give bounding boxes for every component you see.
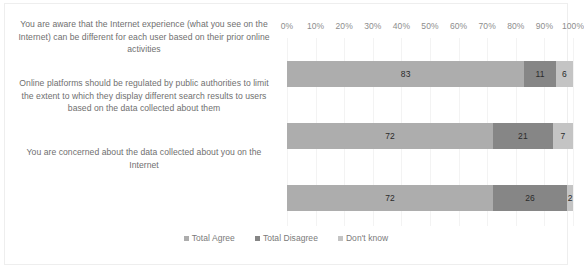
plot-area: 831167221772262 bbox=[287, 38, 573, 226]
legend-label: Don't know bbox=[346, 233, 388, 243]
bar-row[interactable]: 72217 bbox=[287, 123, 573, 149]
bar-value-label: 83 bbox=[401, 69, 411, 79]
legend-swatch-icon bbox=[184, 236, 189, 241]
x-axis-tick-0: 0% bbox=[281, 21, 294, 31]
bar-value-label: 72 bbox=[385, 131, 395, 141]
bar-value-label: 2 bbox=[568, 193, 573, 203]
bar-value-label: 21 bbox=[518, 131, 528, 141]
gridline-100 bbox=[573, 38, 574, 226]
x-axis-tick-20: 20% bbox=[336, 21, 353, 31]
bar-segment-total-disagree[interactable]: 21 bbox=[493, 123, 553, 149]
chart-container: 0%10%20%30%40%50%60%70%80%90%100% 831167… bbox=[4, 3, 568, 265]
legend-label: Total Agree bbox=[192, 233, 235, 243]
bar-value-label: 7 bbox=[561, 131, 566, 141]
x-axis-tick-90: 90% bbox=[536, 21, 553, 31]
bar-segment-total-disagree[interactable]: 26 bbox=[493, 185, 567, 211]
legend-item[interactable]: Total Agree bbox=[184, 233, 235, 243]
x-axis-tick-70: 70% bbox=[479, 21, 496, 31]
bar-segment-total-disagree[interactable]: 11 bbox=[524, 61, 555, 87]
bar-segment-total-agree[interactable]: 72 bbox=[287, 123, 493, 149]
bar-segment-don-t-know[interactable]: 7 bbox=[553, 123, 573, 149]
legend-item[interactable]: Total Disagree bbox=[255, 233, 318, 243]
x-axis-tick-50: 50% bbox=[421, 21, 438, 31]
bar-segment-don-t-know[interactable]: 6 bbox=[556, 61, 573, 87]
bar-value-label: 6 bbox=[562, 69, 567, 79]
legend-label: Total Disagree bbox=[263, 233, 318, 243]
x-axis-tick-100: 100% bbox=[562, 21, 584, 31]
x-axis-tick-30: 30% bbox=[364, 21, 381, 31]
bar-value-label: 72 bbox=[385, 193, 395, 203]
x-axis-tick-40: 40% bbox=[393, 21, 410, 31]
legend-swatch-icon bbox=[338, 236, 343, 241]
x-axis-tick-60: 60% bbox=[450, 21, 467, 31]
category-label: You are aware that the Internet experien… bbox=[13, 18, 275, 56]
legend-item[interactable]: Don't know bbox=[338, 233, 388, 243]
bar-row[interactable]: 83116 bbox=[287, 61, 573, 87]
bar-row[interactable]: 72262 bbox=[287, 185, 573, 211]
x-axis-tick-labels: 0%10%20%30%40%50%60%70%80%90%100% bbox=[283, 21, 573, 35]
bar-segment-total-agree[interactable]: 83 bbox=[287, 61, 524, 87]
category-label: Online platforms should be regulated by … bbox=[13, 77, 275, 115]
x-axis-tick-10: 10% bbox=[307, 21, 324, 31]
x-axis-tick-80: 80% bbox=[507, 21, 524, 31]
category-label: You are concerned about the data collect… bbox=[13, 146, 275, 171]
bar-segment-total-agree[interactable]: 72 bbox=[287, 185, 493, 211]
bar-value-label: 11 bbox=[536, 69, 545, 79]
bar-segment-don-t-know[interactable]: 2 bbox=[567, 185, 573, 211]
legend-swatch-icon bbox=[255, 236, 260, 241]
chart-legend: Total AgreeTotal DisagreeDon't know bbox=[5, 233, 567, 243]
bar-value-label: 26 bbox=[525, 193, 535, 203]
